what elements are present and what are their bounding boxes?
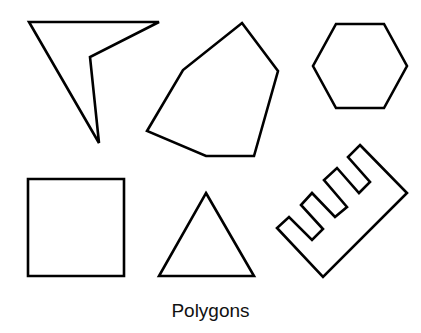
regular-hexagon [313, 24, 407, 108]
figure-caption: Polygons [0, 300, 421, 322]
concave-quadrilateral [29, 22, 159, 143]
square [28, 179, 124, 276]
triangle [159, 193, 254, 276]
comb-polygon [277, 145, 407, 277]
polygons-diagram [0, 0, 421, 333]
irregular-hexagon [147, 23, 278, 156]
